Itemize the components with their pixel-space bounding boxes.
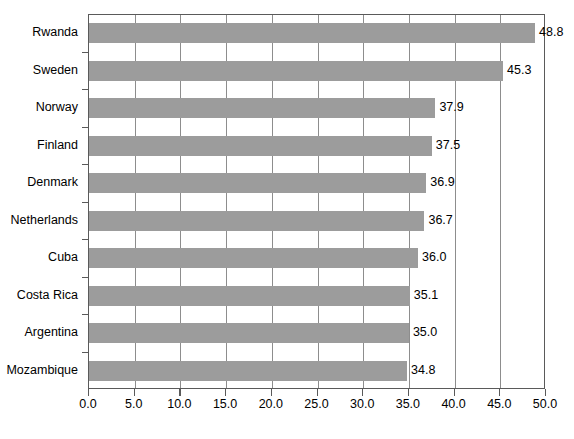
category-label: Finland [37,135,78,155]
bar-value-label: 36.9 [425,172,454,192]
x-axis-tick-label: 25.0 [297,397,337,412]
x-axis-tick-label: 35.0 [388,397,428,412]
x-axis-tick [179,389,180,396]
bar-row [89,353,544,390]
x-axis-tick-label: 45.0 [479,397,519,412]
x-axis-tick-label: 0.0 [68,397,108,412]
bar-value-label: 37.5 [431,135,460,155]
bar [89,136,432,156]
x-axis-tick-label: 30.0 [342,397,382,412]
bar-row [89,53,544,90]
bar [89,98,435,118]
x-axis-tick-label: 40.0 [434,397,474,412]
x-axis-tick [317,389,318,396]
bar [89,323,409,343]
bar-value-label: 35.1 [409,285,438,305]
bar [89,361,407,381]
figure-women-legislators: RwandaSwedenNorwayFinlandDenmarkNetherla… [0,0,574,439]
bar-row [89,315,544,352]
category-label: Mozambique [6,360,78,380]
bar-row [89,240,544,277]
x-axis-tick [545,389,546,396]
bar [89,211,424,231]
figure-caption: Figure 8.1 Women Legislators around the … [0,418,574,439]
x-axis-tick-label: 15.0 [205,397,245,412]
x-axis-tick [408,389,409,396]
category-label: Rwanda [32,22,78,42]
x-axis-tick [454,389,455,396]
x-axis-tick-label: 5.0 [114,397,154,412]
x-axis-tick [134,389,135,396]
plot-area [88,14,545,389]
bar [89,61,503,81]
x-axis-tick [225,389,226,396]
category-label: Denmark [27,172,78,192]
bar [89,173,426,193]
x-axis-tick-label: 20.0 [251,397,291,412]
x-axis-tick [271,389,272,396]
x-axis-tick [88,389,89,396]
category-label: Costa Rica [17,285,78,305]
category-label: Norway [36,97,78,117]
bar-row [89,15,544,52]
bar [89,248,418,268]
x-axis-tick [499,389,500,396]
bar-row [89,278,544,315]
x-axis-tick [362,389,363,396]
category-label: Cuba [48,247,78,267]
bar-value-label: 34.8 [406,360,435,380]
bar-row [89,165,544,202]
category-label: Netherlands [11,210,78,230]
category-label: Argentina [24,322,78,342]
bar-value-label: 48.8 [534,22,563,42]
bar-value-label: 37.9 [434,97,463,117]
x-axis-tick-label: 50.0 [525,397,565,412]
x-axis-tick-label: 10.0 [159,397,199,412]
bar [89,23,535,43]
bar-value-label: 36.0 [417,247,446,267]
bar-value-label: 35.0 [408,322,437,342]
bar-row [89,90,544,127]
bar-row [89,128,544,165]
bar-value-label: 45.3 [502,60,531,80]
bar-value-label: 36.7 [423,210,452,230]
y-axis-labels: RwandaSwedenNorwayFinlandDenmarkNetherla… [0,14,83,389]
category-label: Sweden [33,60,78,80]
bar-row [89,203,544,240]
bar [89,286,410,306]
